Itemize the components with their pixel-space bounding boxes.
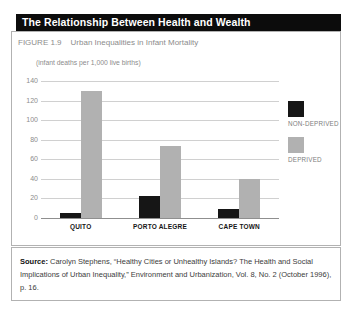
legend-item-deprived: DEPRIVED: [288, 137, 339, 163]
bar-deprived-porto-alegre: [160, 146, 181, 218]
bar-deprived-cape-town: [239, 179, 260, 218]
source-text-3: p. 16.: [20, 283, 39, 292]
source-line: Source: Carolyn Stephens, “Healthy Citie…: [20, 255, 332, 268]
y-axis-units-label: (infant deaths per 1,000 live births): [36, 59, 141, 66]
bar-non-deprived-porto-alegre: [139, 196, 160, 219]
legend-item-non-deprived: NON-DEPRIVED: [288, 101, 339, 127]
source-text-1: Carolyn Stephens, “Healthy Cities or Unh…: [50, 257, 313, 266]
y-tick-label-60: 60: [30, 155, 38, 163]
y-tick-label-140: 140: [26, 77, 38, 85]
bar-deprived-quito: [81, 91, 102, 218]
x-labels-row: QUITOPORTO ALEGRECAPE TOWN: [41, 223, 279, 230]
bar-non-deprived-cape-town: [218, 209, 239, 218]
legend-label-deprived: DEPRIVED: [288, 156, 339, 163]
plot-area: [41, 81, 279, 218]
source-text-2: Implications of Urban Inequality,” Envir…: [20, 270, 331, 279]
figure-caption: FIGURE 1.9Urban Inequalities in Infant M…: [18, 38, 198, 47]
source-line: Implications of Urban Inequality,” Envir…: [20, 268, 332, 281]
legend-swatch-deprived: [288, 137, 304, 153]
figure-container: The Relationship Between Health and Weal…: [11, 14, 341, 301]
bar-group-cape-town: [200, 81, 279, 218]
y-tick-label-0: 0: [34, 214, 38, 222]
legend-label-non-deprived: NON-DEPRIVED: [288, 120, 339, 127]
y-tick-label-80: 80: [30, 136, 38, 144]
y-tick-label-120: 120: [26, 97, 38, 105]
figure-header-title: The Relationship Between Health and Weal…: [22, 16, 251, 28]
y-axis-labels: 020406080100120140: [12, 81, 38, 218]
figure-number: FIGURE 1.9: [18, 38, 62, 47]
chart-panel: FIGURE 1.9Urban Inequalities in Infant M…: [11, 31, 341, 246]
source-panel: Source: Carolyn Stephens, “Healthy Citie…: [11, 247, 341, 301]
figure-title: Urban Inequalities in Infant Mortality: [71, 38, 199, 47]
legend-swatch-non-deprived: [288, 101, 304, 117]
y-tick-label-100: 100: [26, 116, 38, 124]
y-tick-label-40: 40: [30, 175, 38, 183]
bar-group-porto-alegre: [120, 81, 199, 218]
bars-row: [41, 81, 279, 218]
bar-group-quito: [41, 81, 120, 218]
x-category-label-quito: QUITO: [41, 223, 120, 230]
x-axis-line: [41, 218, 279, 219]
x-category-label-porto-alegre: PORTO ALEGRE: [120, 223, 199, 230]
source-line: p. 16.: [20, 281, 332, 294]
x-category-label-cape-town: CAPE TOWN: [200, 223, 279, 230]
figure-header: The Relationship Between Health and Weal…: [16, 14, 341, 31]
page: { "header": { "title": "The Relationship…: [0, 0, 356, 318]
legend: NON-DEPRIVEDDEPRIVED: [288, 101, 339, 173]
source-label: Source:: [20, 257, 48, 266]
y-tick-label-20: 20: [30, 194, 38, 202]
